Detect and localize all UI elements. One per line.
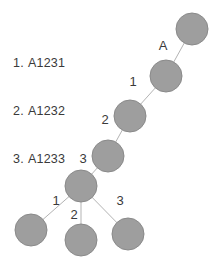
node-level-2[interactable] (92, 140, 124, 172)
node-root[interactable] (176, 13, 208, 45)
node-level-1[interactable] (114, 100, 146, 132)
edge-label-1-top: 1 (129, 75, 136, 88)
node-leaf-1[interactable] (15, 214, 47, 246)
legend-item-1: 1.A1231 (13, 55, 65, 71)
legend-item-2-number: 2. (13, 103, 28, 119)
edge-label-2-mid: 2 (101, 113, 108, 126)
legend-item-3-code: A1233 (28, 152, 65, 166)
node-a[interactable] (150, 60, 182, 92)
legend: 1.A1231 2.A1232 3.A1233 (13, 23, 65, 199)
edge-label-3-mid: 3 (79, 152, 86, 165)
node-leaf-3[interactable] (112, 218, 144, 250)
legend-item-3-number: 3. (13, 151, 28, 167)
node-leaf-2[interactable] (65, 224, 97, 256)
legend-item-1-number: 1. (13, 55, 28, 71)
legend-item-2-code: A1232 (28, 104, 65, 118)
edge-label-3-leaf: 3 (116, 194, 123, 207)
edge-label-a: A (159, 39, 168, 52)
node-branch[interactable] (65, 170, 97, 202)
edge-label-1-leaf: 1 (52, 194, 59, 207)
edge-label-2-leaf: 2 (70, 208, 77, 221)
legend-item-2: 2.A1232 (13, 103, 65, 119)
legend-item-3: 3.A1233 (13, 151, 65, 167)
legend-item-1-code: A1231 (28, 56, 65, 70)
diagram-canvas: 1.A1231 2.A1232 3.A1233 A123123 (0, 0, 221, 268)
